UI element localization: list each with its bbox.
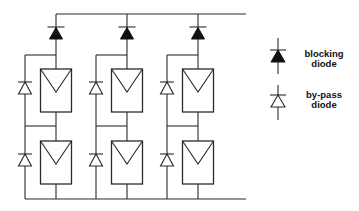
bypass-diode-icon <box>19 154 32 166</box>
bypass-diode-icon <box>271 95 285 107</box>
legend-bypass-diode: by-pass diode <box>270 85 342 120</box>
legend-bypass-label-2: diode <box>311 99 336 110</box>
bypass-diode-icon <box>161 154 174 166</box>
legend-blocking-label-2: diode <box>311 58 336 69</box>
bypass-diode-icon <box>161 82 174 94</box>
legend-blocking-diode: blocking diode <box>270 38 344 74</box>
pv-array-diagram: blocking diode by-pass diode <box>0 0 359 211</box>
string-3 <box>160 14 214 199</box>
bypass-diode-icon <box>90 82 103 94</box>
string-1 <box>18 14 72 199</box>
legend: blocking diode by-pass diode <box>270 38 344 120</box>
bypass-diode-icon <box>90 154 103 166</box>
pv-strings <box>18 14 214 199</box>
blocking-diode-icon <box>50 28 63 40</box>
blocking-diode-icon <box>271 50 285 62</box>
string-2 <box>89 14 143 199</box>
blocking-diode-icon <box>121 28 134 40</box>
blocking-diode-icon <box>192 28 205 40</box>
bypass-diode-icon <box>19 82 32 94</box>
